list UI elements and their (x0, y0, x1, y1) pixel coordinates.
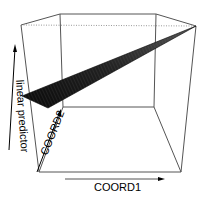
perspective-plot: linear predictor COORD2 COORD1 (0, 0, 206, 200)
x-axis-label: COORD1 (94, 181, 141, 193)
z-axis: linear predictor (9, 44, 31, 153)
z-axis-arrow-line (9, 48, 15, 150)
box-edge-back-right-vertical (154, 14, 156, 107)
box-edge-bottom-right (154, 107, 181, 172)
y-axis-label: COORD2 (38, 109, 67, 157)
x-axis-arrowhead-icon (158, 177, 165, 181)
box-edge-top-left (21, 14, 60, 25)
box-edge-front-right-vertical (181, 26, 196, 172)
y-axis: COORD2 (37, 109, 66, 172)
box-edge-top-front-hidden (21, 25, 196, 26)
x-axis: COORD1 (65, 177, 165, 193)
plot-svg: linear predictor COORD2 COORD1 (0, 0, 206, 200)
surface (22, 26, 196, 108)
z-axis-arrowhead-icon (13, 44, 17, 52)
box-edge-top-right (156, 14, 196, 26)
